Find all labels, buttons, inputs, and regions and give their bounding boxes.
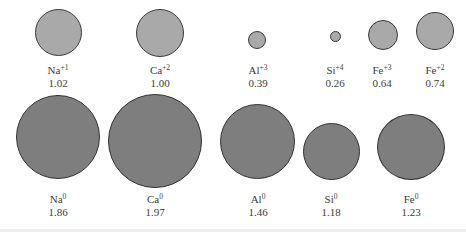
atom-symbol: Ca xyxy=(147,193,159,205)
ion-charge: +4 xyxy=(336,63,344,72)
atom-charge: 0 xyxy=(63,192,67,201)
atom-radius-value: 1.97 xyxy=(125,206,185,219)
atom-circle-fe xyxy=(377,114,445,180)
ion-charge: +3 xyxy=(260,63,268,72)
ion-label-na: Na+1 1.02 xyxy=(28,64,88,90)
bottom-divider xyxy=(0,229,466,232)
ion-symbol: Ca xyxy=(150,64,162,76)
ion-symbol: Al xyxy=(249,64,260,76)
atom-radius-value: 1.46 xyxy=(228,206,288,219)
ion-radius-value: 0.74 xyxy=(405,77,465,90)
atom-circle-si xyxy=(303,123,360,180)
atom-charge: 0 xyxy=(159,192,163,201)
ion-circle-fe3 xyxy=(368,20,398,50)
atom-label-fe: Fe0 1.23 xyxy=(381,193,441,219)
atom-radius-value: 1.86 xyxy=(28,206,88,219)
ion-symbol: Na xyxy=(48,64,61,76)
atom-symbol: Na xyxy=(50,193,63,205)
ion-charge: +1 xyxy=(60,63,68,72)
ion-charge: +2 xyxy=(162,63,170,72)
atom-label-ca: Ca0 1.97 xyxy=(125,193,185,219)
atom-symbol: Fe xyxy=(404,193,415,205)
ion-label-ca: Ca+2 1.00 xyxy=(130,64,190,90)
atom-label-na: Na0 1.86 xyxy=(28,193,88,219)
ion-circle-al xyxy=(248,31,266,49)
ion-symbol: Si xyxy=(326,64,335,76)
atom-charge: 0 xyxy=(262,192,266,201)
ion-charge: +3 xyxy=(384,63,392,72)
ion-charge: +2 xyxy=(437,63,445,72)
atom-label-al: Al0 1.46 xyxy=(228,193,288,219)
atom-charge: 0 xyxy=(415,192,419,201)
atom-circle-al xyxy=(220,104,295,179)
ion-label-fe2: Fe+2 0.74 xyxy=(405,64,465,90)
atom-radius-value: 1.18 xyxy=(301,206,361,219)
atom-radius-value: 1.23 xyxy=(381,206,441,219)
atom-circle-na xyxy=(16,95,100,179)
ion-symbol: Fe xyxy=(426,64,437,76)
ion-circle-si xyxy=(330,31,341,42)
ion-label-fe3: Fe+3 0.64 xyxy=(352,64,412,90)
ion-circle-ca xyxy=(136,9,184,57)
atom-circle-ca xyxy=(108,94,202,188)
atom-label-si: Si0 1.18 xyxy=(301,193,361,219)
ion-radius-value: 1.02 xyxy=(28,77,88,90)
ion-radius-value: 0.64 xyxy=(352,77,412,90)
atom-symbol: Al xyxy=(251,193,262,205)
ion-radius-value: 1.00 xyxy=(130,77,190,90)
ion-circle-na xyxy=(35,9,82,56)
ion-label-al: Al+3 0.39 xyxy=(228,64,288,90)
ion-symbol: Fe xyxy=(373,64,384,76)
atom-charge: 0 xyxy=(334,192,338,201)
atom-symbol: Si xyxy=(325,193,334,205)
ion-radius-value: 0.39 xyxy=(228,77,288,90)
ion-circle-fe2 xyxy=(416,12,454,50)
